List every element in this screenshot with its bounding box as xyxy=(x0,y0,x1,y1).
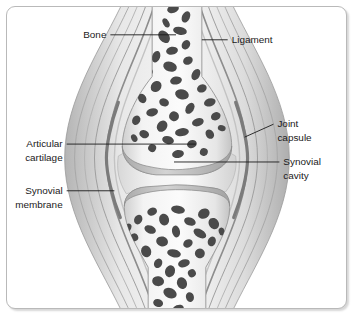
synovial-joint-illustration xyxy=(7,7,346,308)
figure-root: Bone Ligament Articular cartilage Synovi… xyxy=(0,0,359,323)
figure-frame: Bone Ligament Articular cartilage Synovi… xyxy=(6,6,347,309)
